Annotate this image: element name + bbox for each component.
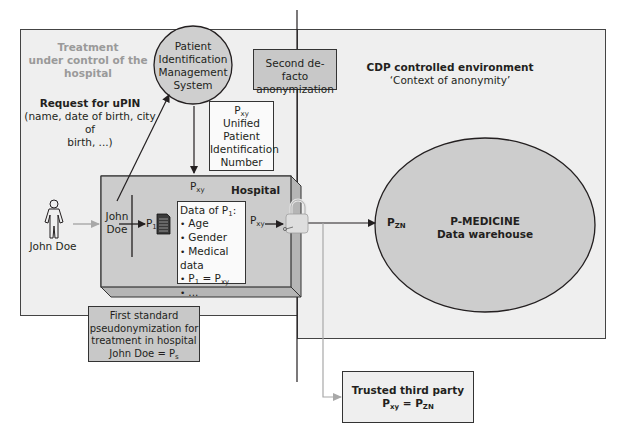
hospital-title: Hospital [231,184,280,197]
list-item: Age [180,217,245,231]
cdp-environment-label: CDP controlled environment ‘Context of a… [360,61,540,87]
upin-request-label: Request for uPIN (name, date of birth, c… [20,97,160,149]
patient-data-box: Data of P1: Age Gender Medical data P1 =… [177,201,246,284]
person-icon [45,200,63,238]
cdp-environment-subtitle: ‘Context of anonymity’ [360,74,540,87]
pxy-out-label: Pxy [250,214,265,227]
upin-symbol: Pxy [210,104,273,117]
first-pseudonymization-box: First standard pseudonymization for trea… [88,306,200,362]
p1-label: P1 [146,217,157,230]
pims-circle: Patient Identification Management System [155,40,231,92]
list-item: P1 = Pxy [180,272,245,286]
pzn-label: PZN [387,216,406,229]
upin-request-details: (name, date of birth, city of birth, ...… [20,110,160,149]
document-icon [157,214,170,234]
second-anonymization-box: Second de-facto anonymization [253,49,337,90]
trusted-third-party-box: Trusted third party Pxy = PZN [342,371,474,423]
upin-request-title: Request for uPIN [20,97,160,110]
patient-data-title: Data of P1: [180,204,245,217]
cdp-environment-title: CDP controlled environment [360,61,540,74]
patient-data-list: Age Gender Medical data P1 = Pxy ... [180,217,245,300]
upin-box: Pxy Unified Patient Identification Numbe… [209,101,274,171]
hospital-pxy-label: Pxy [190,180,205,193]
list-item: Gender [180,231,245,245]
warehouse-label: P-MEDICINE Data warehouse [430,215,540,241]
hospital-john-doe: John Doe [103,210,131,236]
person-label: John Doe [20,240,86,253]
list-item: Medical data [180,245,245,272]
hospital-treatment-title: Treatment under control of the hospital [28,41,148,80]
list-item: ... [180,286,245,300]
